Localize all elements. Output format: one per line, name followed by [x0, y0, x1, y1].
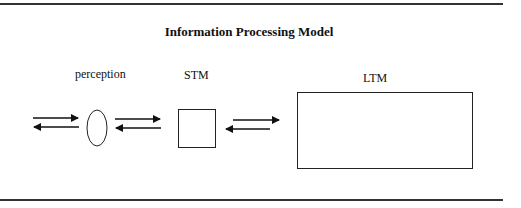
ltm-box: [298, 93, 473, 169]
diagram-canvas: [0, 0, 521, 208]
arrow-pair-perception-stm: [115, 119, 161, 128]
stm-box: [179, 110, 216, 148]
arrow-pair-input-perception: [33, 118, 79, 127]
bottom-rule: [0, 199, 503, 201]
arrow-pair-stm-ltm: [226, 120, 279, 129]
perception-ellipse: [87, 110, 107, 146]
